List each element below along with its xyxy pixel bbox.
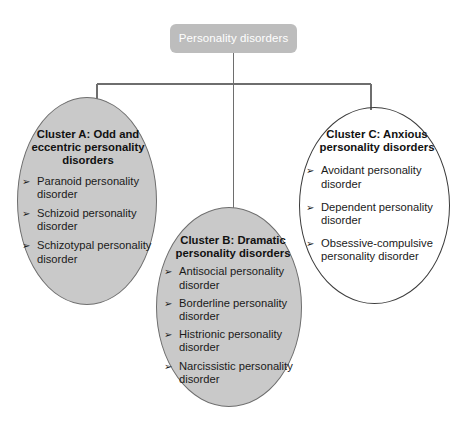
arrow-bullet-icon: ➢ bbox=[22, 239, 30, 252]
arrow-bullet-icon: ➢ bbox=[306, 237, 314, 250]
list-item: ➢ Schizotypal personality disorder bbox=[22, 239, 154, 265]
cluster-b-title: Cluster B: Dramatic personality disorder… bbox=[164, 234, 302, 260]
root-node-label: Personality disorders bbox=[179, 32, 288, 45]
cluster-a-item-list: ➢ Paranoid personality disorder ➢ Schizo… bbox=[22, 175, 154, 266]
list-item: ➢ Antisocial personality disorder bbox=[164, 265, 302, 291]
cluster-b-content: Cluster B: Dramatic personality disorder… bbox=[164, 234, 302, 391]
arrow-bullet-icon: ➢ bbox=[22, 175, 30, 188]
list-item: ➢ Obsessive-compulsive personality disor… bbox=[306, 237, 448, 263]
root-node-personality-disorders: Personality disorders bbox=[170, 24, 297, 53]
arrow-bullet-icon: ➢ bbox=[22, 207, 30, 220]
list-item-label: Histrionic personality disorder bbox=[179, 328, 302, 354]
list-item: ➢ Borderline personality disorder bbox=[164, 297, 302, 323]
list-item: ➢ Paranoid personality disorder bbox=[22, 175, 154, 201]
cluster-c-content: Cluster C: Anxious personality disorders… bbox=[306, 128, 448, 274]
cluster-b-item-list: ➢ Antisocial personality disorder ➢ Bord… bbox=[164, 265, 302, 386]
list-item: ➢ Dependent personality disorder bbox=[306, 201, 448, 227]
cluster-a-title: Cluster A: Odd and eccentric personality… bbox=[22, 128, 154, 168]
list-item-label: Dependent personality disorder bbox=[321, 201, 448, 227]
arrow-bullet-icon: ➢ bbox=[306, 201, 314, 214]
list-item-label: Schizotypal personality disorder bbox=[37, 239, 154, 265]
list-item-label: Obsessive-compulsive personality disorde… bbox=[321, 237, 448, 263]
list-item: ➢ Histrionic personality disorder bbox=[164, 328, 302, 354]
cluster-c-title: Cluster C: Anxious personality disorders bbox=[306, 128, 448, 154]
list-item-label: Schizoid personality disorder bbox=[37, 207, 154, 233]
arrow-bullet-icon: ➢ bbox=[164, 265, 172, 278]
arrow-bullet-icon: ➢ bbox=[164, 328, 172, 341]
list-item: ➢ Avoidant personality disorder bbox=[306, 164, 448, 190]
list-item-label: Antisocial personality disorder bbox=[179, 265, 302, 291]
list-item-label: Avoidant personality disorder bbox=[321, 164, 448, 190]
arrow-bullet-icon: ➢ bbox=[306, 164, 314, 177]
list-item: ➢ Narcissistic personality disorder bbox=[164, 360, 302, 386]
cluster-c-item-list: ➢ Avoidant personality disorder ➢ Depend… bbox=[306, 164, 448, 263]
list-item-label: Paranoid personality disorder bbox=[37, 175, 154, 201]
arrow-bullet-icon: ➢ bbox=[164, 360, 172, 373]
diagram-canvas: Personality disorders Cluster A: Odd and… bbox=[0, 0, 459, 431]
list-item-label: Borderline personality disorder bbox=[179, 297, 302, 323]
arrow-bullet-icon: ➢ bbox=[164, 297, 172, 310]
cluster-a-content: Cluster A: Odd and eccentric personality… bbox=[22, 128, 154, 266]
list-item: ➢ Schizoid personality disorder bbox=[22, 207, 154, 233]
list-item-label: Narcissistic personality disorder bbox=[179, 360, 302, 386]
